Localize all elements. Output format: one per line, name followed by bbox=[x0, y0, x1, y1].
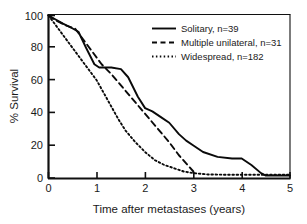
x-tick-label-1: 1 bbox=[94, 182, 100, 194]
y-tick-label-60: 60 bbox=[31, 74, 43, 86]
legend-item-solitary[interactable]: Solitary, n=39 bbox=[152, 23, 239, 34]
legend-label-solitary: Solitary, n=39 bbox=[181, 23, 239, 34]
y-tick-label-100: 100 bbox=[25, 10, 43, 22]
legend-label-widespread: Widespread, n=182 bbox=[181, 51, 264, 62]
x-tick-label-5: 5 bbox=[287, 182, 293, 194]
chart-legend: Solitary, n=39 Multiple unilateral, n=31… bbox=[152, 23, 282, 62]
x-tick-label-3: 3 bbox=[191, 182, 197, 194]
y-axis-tick-labels: 0 20 40 60 80 100 bbox=[25, 10, 43, 185]
y-tick-label-80: 80 bbox=[31, 41, 43, 53]
y-tick-label-40: 40 bbox=[31, 106, 43, 118]
y-tick-label-20: 20 bbox=[31, 139, 43, 151]
curve-multiple-unilateral bbox=[49, 16, 194, 172]
y-axis-title: % Survival bbox=[8, 69, 20, 123]
y-tick-label-0: 0 bbox=[37, 172, 43, 184]
x-tick-label-0: 0 bbox=[45, 182, 51, 194]
legend-item-multiple-unilateral[interactable]: Multiple unilateral, n=31 bbox=[152, 37, 282, 48]
x-axis-tick-labels: 0 1 2 3 4 5 bbox=[45, 182, 293, 194]
chart-canvas: 0 20 40 60 80 100 0 1 2 3 4 5 Time after… bbox=[0, 0, 307, 224]
legend-item-widespread[interactable]: Widespread, n=182 bbox=[152, 51, 264, 62]
x-tick-label-4: 4 bbox=[239, 182, 245, 194]
x-tick-label-2: 2 bbox=[142, 182, 148, 194]
legend-label-multiple-unilateral: Multiple unilateral, n=31 bbox=[181, 37, 282, 48]
survival-chart-figure: 0 20 40 60 80 100 0 1 2 3 4 5 Time after… bbox=[0, 0, 307, 224]
x-axis-title: Time after metastases (years) bbox=[93, 203, 245, 215]
